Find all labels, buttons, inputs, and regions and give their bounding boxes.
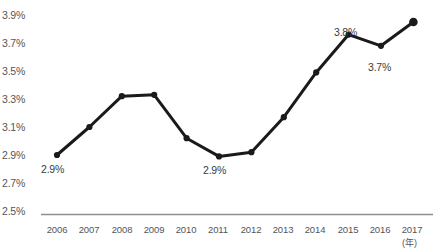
line-chart: 3.9% 3.7% 3.5% 3.3% 3.1% 2.9% 2.7% 2.5% … [0, 0, 441, 252]
x-tick-label-2011: 2011 [201, 224, 235, 235]
x-tick-label-2013: 2013 [266, 224, 300, 235]
x-tick-label-2007: 2007 [72, 224, 106, 235]
x-tick-label-2010: 2010 [169, 224, 203, 235]
x-tick-label-2012: 2012 [234, 224, 268, 235]
x-tick-label-2008: 2008 [105, 224, 139, 235]
x-tick-label-2017: 2017 [395, 224, 429, 235]
x-tick-label-2015: 2015 [331, 224, 365, 235]
x-tick-label-2014: 2014 [298, 224, 332, 235]
x-axis-unit-label: (年) [402, 236, 417, 249]
x-tick-label-2009: 2009 [137, 224, 171, 235]
x-tick-label-2006: 2006 [40, 224, 74, 235]
x-tick-label-2016: 2016 [363, 224, 397, 235]
x-axis: 2006 2007 2008 2009 2010 2011 2012 2013 … [0, 0, 441, 252]
